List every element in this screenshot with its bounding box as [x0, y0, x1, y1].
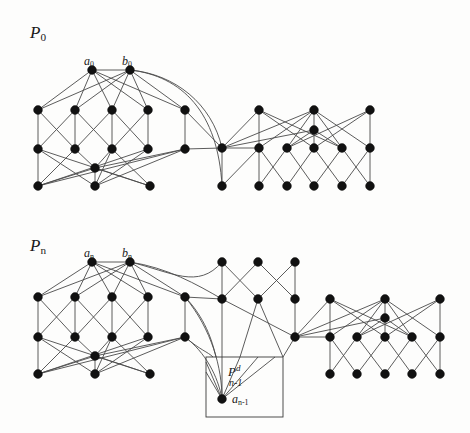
- graph-node: [34, 182, 43, 191]
- graph-node: [255, 106, 264, 115]
- graph-node: [144, 293, 153, 302]
- graph-node: [366, 182, 375, 191]
- figure-canvas: P0 a0 b0 Pn an bn P d n-1 an-1: [0, 0, 470, 433]
- graph-node: [283, 144, 292, 153]
- graph-node: [108, 145, 117, 154]
- inset-box-label-subscript: n-1: [228, 378, 242, 387]
- graph-node: [338, 144, 347, 153]
- graph-node: [310, 182, 319, 191]
- graph-node: [326, 370, 335, 379]
- graph-node: [366, 106, 375, 115]
- graph-node: [408, 370, 417, 379]
- graph-node: [34, 293, 43, 302]
- pn-middle-edges: [222, 262, 295, 357]
- graph-node: [181, 293, 190, 302]
- p0-right-edges: [222, 110, 370, 186]
- graph-node: [436, 370, 445, 379]
- graph-node: [254, 258, 263, 267]
- graph-node: [283, 182, 292, 191]
- graph-node: [436, 333, 445, 342]
- graph-node: [71, 145, 80, 154]
- graph-node: [108, 293, 117, 302]
- graph-node: [291, 258, 300, 267]
- graph-node: [71, 293, 80, 302]
- graph-node: [91, 352, 100, 361]
- graph-node: [408, 333, 417, 342]
- graph-node: [291, 295, 300, 304]
- graph-node: [218, 144, 227, 153]
- graph-node: [71, 333, 80, 342]
- inset-box-label-superscript: d: [236, 364, 241, 373]
- graph-node: [218, 258, 227, 267]
- vertex-label-bn: bn: [122, 247, 132, 259]
- pn-left-edges: [38, 262, 185, 374]
- pn-right-fan-edges: [130, 262, 222, 399]
- graph-node: [91, 164, 100, 173]
- vertex-label-an: an: [84, 247, 94, 259]
- graph-node: [144, 106, 153, 115]
- p0-left-edges: [38, 70, 185, 186]
- graph-node: [291, 333, 300, 342]
- inset-box-frame: [206, 357, 283, 417]
- panel-label-pn: Pn: [30, 237, 46, 254]
- graph-node: [310, 106, 319, 115]
- graph-node: [326, 295, 335, 304]
- graph-node: [353, 370, 362, 379]
- graph-node: [310, 126, 319, 135]
- graph-node: [310, 144, 319, 153]
- graph-node: [146, 182, 155, 191]
- graph-node: [436, 295, 445, 304]
- graph-node: [353, 333, 362, 342]
- graph-node: [381, 370, 390, 379]
- graph-node: [218, 182, 227, 191]
- graph-node: [338, 182, 347, 191]
- panel-label-p0: P0: [30, 24, 46, 41]
- inset-box-label-stack: P d n-1: [228, 366, 242, 387]
- graph-node: [366, 144, 375, 153]
- graph-node: [91, 182, 100, 191]
- graph-node: [91, 370, 100, 379]
- inset-box-label: P d n-1: [228, 366, 242, 388]
- graph-node: [255, 144, 264, 153]
- graph-node: [146, 370, 155, 379]
- graph-node: [181, 106, 190, 115]
- graph-node: [381, 295, 390, 304]
- graph-node: [181, 145, 190, 154]
- graph-node: [34, 333, 43, 342]
- graph-node: [218, 395, 227, 404]
- graph-node: [181, 333, 190, 342]
- graph-node: [144, 333, 153, 342]
- p0-bridge-curves: [130, 70, 222, 186]
- vertex-label-a-n-minus-1: an-1: [232, 393, 249, 405]
- graph-node: [381, 333, 390, 342]
- graph-node: [108, 106, 117, 115]
- graph-node: [255, 182, 264, 191]
- graph-node: [34, 106, 43, 115]
- graph-node: [381, 314, 390, 323]
- graph-node: [34, 145, 43, 154]
- vertex-label-b0: b0: [122, 55, 132, 67]
- graph-node: [34, 370, 43, 379]
- graph-node: [108, 333, 117, 342]
- graph-node: [144, 145, 153, 154]
- graph-node: [71, 106, 80, 115]
- graph-node: [218, 295, 227, 304]
- vertex-label-a0: a0: [84, 55, 94, 67]
- graph-node: [254, 295, 263, 304]
- graph-node: [326, 333, 335, 342]
